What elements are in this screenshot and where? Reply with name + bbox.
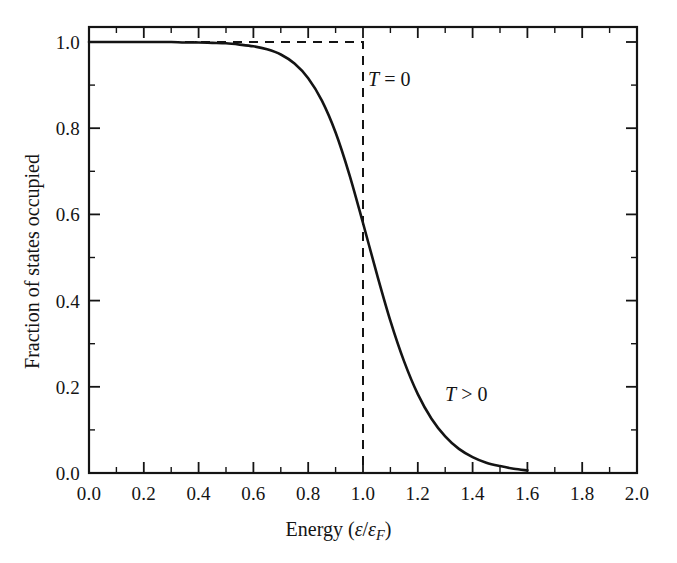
x-tick-label: 0.6	[241, 484, 265, 503]
x-tick-label: 0.4	[186, 484, 210, 503]
plot-canvas	[0, 0, 677, 563]
x-tick-label: 1.6	[515, 484, 539, 503]
x-axis-title-prefix: Energy (	[286, 518, 355, 540]
x-tick-label: 0.8	[296, 484, 320, 503]
epsilon-symbol: ε	[355, 518, 363, 540]
x-tick-label: 1.2	[406, 484, 430, 503]
x-tick-label: 0.2	[132, 484, 156, 503]
x-axis-title-suffix: )	[385, 518, 392, 540]
annotation-t0-rest: = 0	[379, 68, 410, 90]
x-tick-label: 1.8	[570, 484, 594, 503]
x-tick-label: 1.0	[351, 484, 375, 503]
series-t-greater-zero	[89, 42, 527, 470]
x-tick-label: 1.4	[460, 484, 484, 503]
y-tick-label: 0.0	[18, 464, 80, 483]
annotation-tgt0-rest: > 0	[456, 383, 487, 405]
fermi-dirac-chart-figure: 0.00.20.40.60.81.0 0.00.20.40.60.81.01.2…	[0, 0, 677, 563]
annotation-t-greater-zero: T > 0	[445, 383, 487, 406]
y-axis-title: Fraction of states occupied	[21, 112, 44, 412]
x-tick-label: 2.0	[625, 484, 649, 503]
x-tick-label: 0.0	[77, 484, 101, 503]
annotation-t-equals-zero: T = 0	[368, 68, 410, 91]
annotation-t0-symbol: T	[368, 68, 379, 90]
data-series	[89, 42, 527, 473]
x-axis-title: Energy (ε/εF)	[0, 518, 677, 544]
series-t-equals-zero	[89, 42, 363, 473]
epsilon-f-subscript: F	[376, 527, 385, 543]
y-tick-label: 1.0	[18, 33, 80, 52]
annotation-tgt0-symbol: T	[445, 383, 456, 405]
epsilon-f-symbol: ε	[368, 518, 376, 540]
